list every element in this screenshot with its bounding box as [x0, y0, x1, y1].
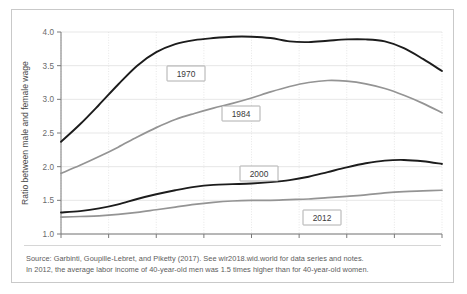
series-label-1970: 1970 [167, 66, 205, 81]
source-note: Source: Garbinti, Goupille-Lebret, and P… [26, 253, 441, 264]
interpretation-note: In 2012, the average labor income of 40-… [26, 264, 441, 275]
notes-divider [24, 245, 441, 246]
series-label-text-2000: 2000 [250, 169, 269, 179]
series-label-text-1970: 1970 [177, 69, 196, 79]
y-tick-label: 2.5 [43, 129, 55, 138]
y-tick-label: 4.0 [43, 28, 55, 37]
series-label-2000: 2000 [240, 166, 278, 181]
y-axis-title: Ratio between male and female wage [20, 61, 30, 205]
figure-frame: 1.01.52.02.53.03.54.0253035404550556065R… [11, 9, 454, 283]
y-tick-label: 2.0 [43, 163, 55, 172]
series-label-2012: 2012 [303, 210, 341, 225]
y-tick-label: 3.5 [43, 62, 55, 71]
chart-figure: 1.01.52.02.53.03.54.0253035404550556065R… [0, 0, 467, 294]
plot-area: 1.01.52.02.53.03.54.0253035404550556065R… [12, 10, 453, 242]
notes-block: Source: Garbinti, Goupille-Lebret, and P… [12, 245, 453, 282]
y-tick-label: 3.0 [43, 95, 55, 104]
series-label-text-2012: 2012 [313, 213, 332, 223]
y-tick-label: 1.0 [43, 230, 55, 239]
line-chart: 1.01.52.02.53.03.54.0253035404550556065R… [12, 10, 453, 242]
series-label-1984: 1984 [222, 106, 260, 121]
series-label-text-1984: 1984 [232, 109, 251, 119]
y-tick-label: 1.5 [43, 196, 55, 205]
